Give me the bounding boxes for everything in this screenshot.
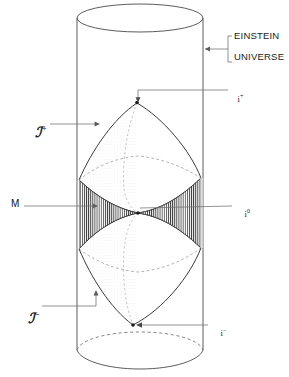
i-zero-label: i0 [236, 199, 250, 228]
cylinder-bottom-front-arc [77, 350, 203, 369]
i-minus-label: i− [212, 318, 226, 347]
scri-minus-label: ℐ− [14, 296, 40, 341]
minkowski-label: M [11, 199, 19, 210]
right-wall-hatch-strip [201, 178, 204, 248]
left-wall-hatch-strip [77, 180, 80, 249]
center-crossing-point [136, 211, 139, 214]
einstein-arrowhead [205, 46, 210, 51]
scri-plus-label: ℐ+ [21, 110, 47, 155]
cylinder-bottom-back-arc [77, 332, 203, 350]
scri-minus-superscript: − [35, 310, 40, 319]
einstein-universe-label-line2: UNIVERSE [234, 52, 284, 62]
scri-minus-glyph: ℐ [28, 310, 35, 325]
cylinder-top-ellipse [77, 4, 203, 32]
scri-plus-glyph: ℐ [35, 124, 42, 139]
penrose-diagram-figure: EINSTEIN UNIVERSE ℐ+ ℐ− M i+ i0 i− [0, 0, 289, 377]
i-plus-superscript: + [240, 93, 243, 99]
scri-minus-arrowhead [94, 290, 99, 295]
i-minus-vertex-dot [131, 323, 135, 327]
scri-plus-superscript: + [42, 124, 47, 133]
einstein-universe-label-line1: EINSTEIN [234, 31, 279, 41]
einstein-bracket [228, 36, 232, 62]
i-zero-superscript: 0 [247, 208, 250, 214]
i-plus-label: i+ [229, 84, 243, 113]
scri-plus-arrowhead [95, 121, 100, 126]
i-minus-superscript: − [223, 327, 226, 333]
